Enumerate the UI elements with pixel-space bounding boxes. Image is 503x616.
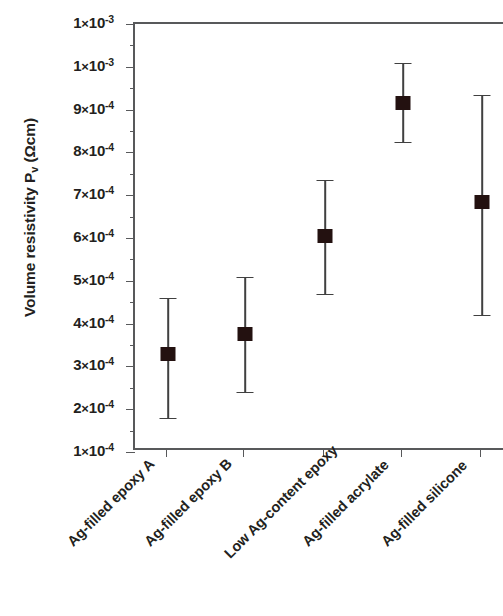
y-axis-minor-tick bbox=[130, 174, 135, 175]
x-axis-tick bbox=[480, 450, 481, 457]
y-axis-major-tick bbox=[126, 238, 135, 239]
y-axis-major-tick bbox=[126, 67, 135, 68]
y-axis-major-tick bbox=[126, 195, 135, 196]
y-axis-minor-tick bbox=[130, 388, 135, 389]
y-axis-major-tick bbox=[126, 281, 135, 282]
y-axis-major-tick bbox=[126, 324, 135, 325]
y-axis-tick-label: 1×10-3 bbox=[22, 56, 114, 74]
error-bar-cap-upper bbox=[317, 180, 334, 181]
error-bar-cap-lower bbox=[160, 418, 177, 419]
x-axis-tick bbox=[243, 450, 244, 457]
y-axis-minor-tick bbox=[130, 302, 135, 303]
error-bar-cap-upper bbox=[395, 63, 412, 64]
x-axis-tick bbox=[401, 450, 402, 457]
data-point-marker bbox=[238, 327, 253, 341]
error-bar-cap-upper bbox=[474, 95, 491, 96]
error-bar-cap-upper bbox=[160, 298, 177, 299]
error-bar-cap-lower bbox=[395, 142, 412, 143]
y-axis-major-tick bbox=[126, 24, 135, 25]
y-axis-tick-label: 8×10-4 bbox=[22, 141, 114, 159]
error-bar-cap-lower bbox=[317, 294, 334, 295]
error-bar-cap-lower bbox=[237, 392, 254, 393]
x-axis-tick-label: Low Ag-content epoxy bbox=[221, 442, 340, 561]
error-bar-cap-lower bbox=[474, 315, 491, 316]
data-point-marker bbox=[161, 347, 176, 361]
y-axis-minor-tick bbox=[130, 131, 135, 132]
data-point-marker bbox=[318, 229, 333, 243]
error-bar-cap-upper bbox=[237, 277, 254, 278]
y-axis-major-tick bbox=[126, 366, 135, 367]
x-axis-tick bbox=[166, 450, 167, 457]
y-axis-major-tick bbox=[126, 409, 135, 410]
y-axis-minor-tick bbox=[130, 45, 135, 46]
y-axis-minor-tick bbox=[130, 217, 135, 218]
plot-area bbox=[133, 22, 503, 450]
x-axis-tick-labels: Ag-filled epoxy AAg-filled epoxy BLow Ag… bbox=[0, 450, 503, 616]
y-axis-tick-label: 3×10-4 bbox=[22, 355, 114, 373]
y-axis-minor-tick bbox=[130, 345, 135, 346]
y-axis-tick-label: 7×10-4 bbox=[22, 184, 114, 202]
y-axis-minor-tick bbox=[130, 88, 135, 89]
y-axis-tick-label: 5×10-4 bbox=[22, 270, 114, 288]
y-axis-tick-label: 1×10-3 bbox=[22, 13, 114, 31]
chart-figure: Volume resistivity Pv (Ωcm) 1×10-31×10-3… bbox=[0, 0, 503, 616]
y-axis-minor-tick bbox=[130, 431, 135, 432]
data-point-marker bbox=[396, 96, 411, 110]
x-axis-tick-label: Ag-filled silicone bbox=[378, 457, 470, 549]
y-axis-major-tick bbox=[126, 110, 135, 111]
data-point-marker bbox=[475, 195, 490, 209]
y-axis-tick-label: 6×10-4 bbox=[22, 227, 114, 245]
y-axis-tick-label: 2×10-4 bbox=[22, 398, 114, 416]
y-axis-major-tick bbox=[126, 152, 135, 153]
y-axis-minor-tick bbox=[130, 259, 135, 260]
y-axis-tick-label: 4×10-4 bbox=[22, 313, 114, 331]
y-axis-tick-label: 9×10-4 bbox=[22, 99, 114, 117]
